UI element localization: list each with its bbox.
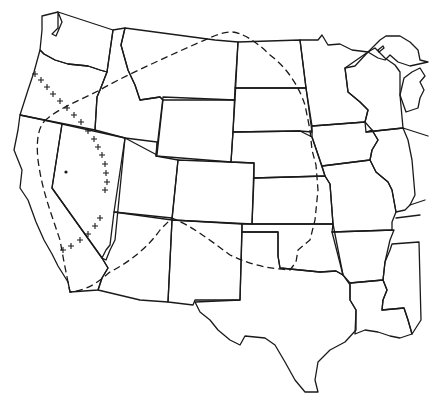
asterisk-icon: [64, 170, 67, 173]
state-idaho: [95, 28, 163, 155]
state-north-dakota: [235, 40, 306, 88]
state-nevada: [52, 124, 125, 260]
tennessee-edge: [396, 215, 420, 218]
state-mississippi: [382, 242, 421, 334]
state-arkansas: [332, 230, 394, 283]
state-washington: [40, 12, 113, 72]
state-new-mexico: [168, 220, 242, 305]
state-wyoming: [156, 97, 235, 162]
state-montana: [121, 28, 238, 100]
cross-marker: [50, 91, 56, 97]
cross-marker: [38, 77, 44, 83]
state-michigan-upper: [368, 36, 428, 66]
state-texas: [195, 232, 356, 392]
cross-marker: [57, 98, 63, 104]
state-utah: [114, 138, 178, 218]
cross-marker: [78, 119, 84, 125]
state-wisconsin: [345, 48, 403, 132]
state-south-dakota: [233, 88, 312, 132]
cross-marker: [77, 237, 83, 243]
state-illinois: [366, 128, 415, 212]
cross-marker: [44, 84, 50, 90]
puget-sound: [52, 12, 62, 36]
cross-marker: [68, 243, 74, 249]
state-boundaries: [14, 12, 428, 392]
isle-royale: [378, 46, 384, 52]
indiana-edge: [403, 128, 428, 136]
us-map-svg: [0, 0, 436, 405]
state-colorado: [172, 160, 254, 224]
state-nebraska: [231, 131, 325, 178]
cross-marker: [99, 152, 105, 158]
cross-marker: [64, 105, 70, 111]
cross-marker: [102, 161, 108, 167]
cross-marker: [95, 144, 101, 150]
state-arizona: [98, 212, 172, 302]
state-louisiana: [350, 280, 412, 338]
cross-marker: [71, 112, 77, 118]
state-kansas: [252, 176, 333, 224]
map: [0, 0, 436, 405]
cross-marker: [91, 136, 97, 142]
cross-marker: [103, 170, 109, 176]
cross-markers: [32, 71, 110, 253]
cross-marker: [97, 215, 103, 221]
state-iowa: [312, 122, 378, 166]
state-michigan-lower: [400, 68, 425, 112]
state-missouri: [322, 160, 396, 232]
cross-marker: [104, 179, 110, 185]
star-marker: [64, 170, 67, 173]
state-minnesota: [300, 35, 368, 126]
cross-marker: [102, 187, 108, 193]
cross-marker: [92, 223, 98, 229]
